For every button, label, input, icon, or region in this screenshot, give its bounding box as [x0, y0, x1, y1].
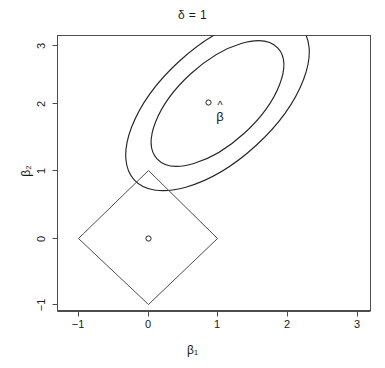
y-tick-label-0: 0 [35, 224, 47, 254]
plot-frame [58, 36, 371, 311]
beta-hat-beta-glyph: β [208, 110, 232, 123]
x-tick-label-neg1: −1 [63, 318, 93, 330]
x-tick-label-3: 3 [342, 318, 372, 330]
y-axis [53, 36, 58, 312]
y-tick-label-2: 2 [35, 89, 47, 119]
l1-constraint-diamond [79, 171, 218, 305]
y-tick-label-neg1: −1 [35, 290, 47, 320]
origin-marker-icon [146, 236, 151, 241]
x-axis-label: β₁ [0, 343, 385, 357]
y-tick-label-3: 3 [35, 31, 47, 61]
plot-canvas [0, 0, 385, 368]
lasso-geometry-plot: δ = 1 β₁ β₂ −1 0 1 2 3 3 2 1 0 −1 [0, 0, 385, 368]
x-tick-label-0: 0 [133, 318, 163, 330]
x-tick-label-2: 2 [272, 318, 302, 330]
plot-title: δ = 1 [0, 8, 385, 22]
x-axis [58, 312, 371, 317]
y-tick-label-1: 1 [35, 156, 47, 186]
y-axis-label: β₂ [19, 151, 33, 191]
x-tick-label-1: 1 [202, 318, 232, 330]
beta-hat-label: ^ β [208, 100, 232, 123]
